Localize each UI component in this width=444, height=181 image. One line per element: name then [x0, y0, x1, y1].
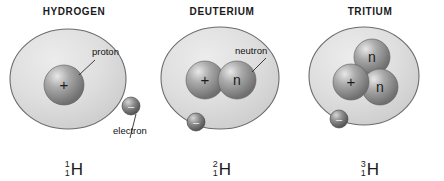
isotopes-of-hydrogen-diagram: HYDROGEN	[0, 0, 444, 181]
atomic-number-tritium: 1	[361, 169, 366, 178]
atomic-number-deuterium: 1	[213, 169, 218, 178]
atom-illustration-tritium: n + n –	[296, 18, 444, 148]
electron-charge-glyph: –	[336, 113, 343, 125]
neutron-glyph-top: n	[368, 49, 376, 65]
atomic-number-hydrogen: 1	[65, 169, 70, 178]
callout-label-neutron: neutron	[235, 45, 267, 56]
neutron-glyph-right: n	[376, 79, 384, 95]
element-symbol-hydrogen: H	[71, 161, 83, 179]
atom-illustration-deuterium: + n –	[148, 18, 296, 148]
isotope-numbers-deuterium: 2 1	[213, 160, 218, 178]
proton-charge-glyph: +	[201, 71, 210, 88]
panel-title-tritium: TRITIUM	[296, 6, 444, 17]
panel-deuterium: DEUTERIUM	[148, 0, 296, 181]
panel-title-deuterium: DEUTERIUM	[148, 6, 296, 17]
panel-hydrogen: HYDROGEN	[0, 0, 148, 181]
isotope-notation-tritium: 3 1 H	[296, 160, 444, 179]
isotope-notation-deuterium: 2 1 H	[148, 160, 296, 179]
isotope-notation-hydrogen: 1 1 H	[0, 160, 148, 179]
element-symbol-deuterium: H	[219, 161, 231, 179]
panel-tritium: TRITIUM	[296, 0, 444, 181]
proton-charge-glyph: +	[347, 73, 356, 90]
isotope-numbers-tritium: 3 1	[361, 160, 366, 178]
callout-label-electron: electron	[113, 125, 147, 136]
isotope-numbers-hydrogen: 1 1	[65, 160, 70, 178]
neutron-glyph: n	[233, 72, 241, 88]
panel-title-hydrogen: HYDROGEN	[0, 6, 148, 17]
callout-label-proton: proton	[92, 46, 119, 57]
proton-charge-glyph: +	[60, 76, 69, 93]
element-symbol-tritium: H	[367, 161, 379, 179]
electron-charge-glyph: –	[128, 100, 135, 112]
electron-charge-glyph: –	[193, 116, 200, 128]
